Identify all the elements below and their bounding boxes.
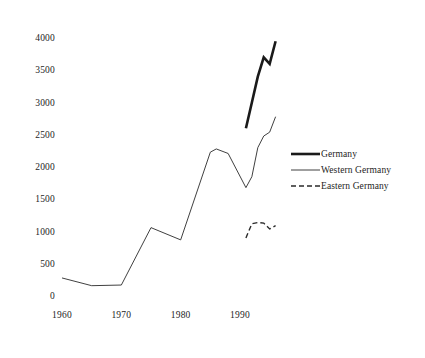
- legend-item-label: Eastern Germany: [320, 181, 389, 192]
- legend-item-eastern-germany[interactable]: Eastern Germany: [291, 178, 421, 194]
- series-line-western-germany: [62, 117, 276, 286]
- legend-line-sample-icon: [291, 165, 320, 175]
- legend-item-western-germany[interactable]: Western Germany: [291, 162, 421, 178]
- legend-item-germany[interactable]: Germany: [291, 146, 421, 162]
- legend-line-sample-icon: [291, 181, 320, 191]
- series-line-eastern-germany: [246, 222, 276, 237]
- x-axis-tick-label: 1970: [101, 310, 141, 320]
- y-axis-tick-label: 4000: [15, 33, 55, 43]
- x-axis-tick-label: 1960: [42, 310, 82, 320]
- y-axis-tick-label: 2500: [15, 130, 55, 140]
- line-chart: 05001000150020002500300035004000 1960197…: [0, 0, 425, 358]
- y-axis-tick-label: 1500: [15, 194, 55, 204]
- y-axis-tick-label: 2000: [15, 162, 55, 172]
- y-axis-tick-label: 3500: [15, 65, 55, 75]
- legend-item-label: Germany: [320, 149, 357, 160]
- series-line-germany: [246, 41, 276, 128]
- y-axis-tick-label: 500: [15, 259, 55, 269]
- series-layer: [62, 41, 276, 285]
- y-axis-tick-label: 0: [15, 291, 55, 301]
- y-axis-tick-label: 3000: [15, 98, 55, 108]
- legend-line-sample-icon: [291, 149, 320, 159]
- x-axis-tick-label: 1980: [161, 310, 201, 320]
- x-axis-tick-label: 1990: [220, 310, 260, 320]
- legend-item-label: Western Germany: [320, 165, 391, 176]
- y-axis-tick-label: 1000: [15, 227, 55, 237]
- chart-legend: GermanyWestern GermanyEastern Germany: [291, 146, 421, 194]
